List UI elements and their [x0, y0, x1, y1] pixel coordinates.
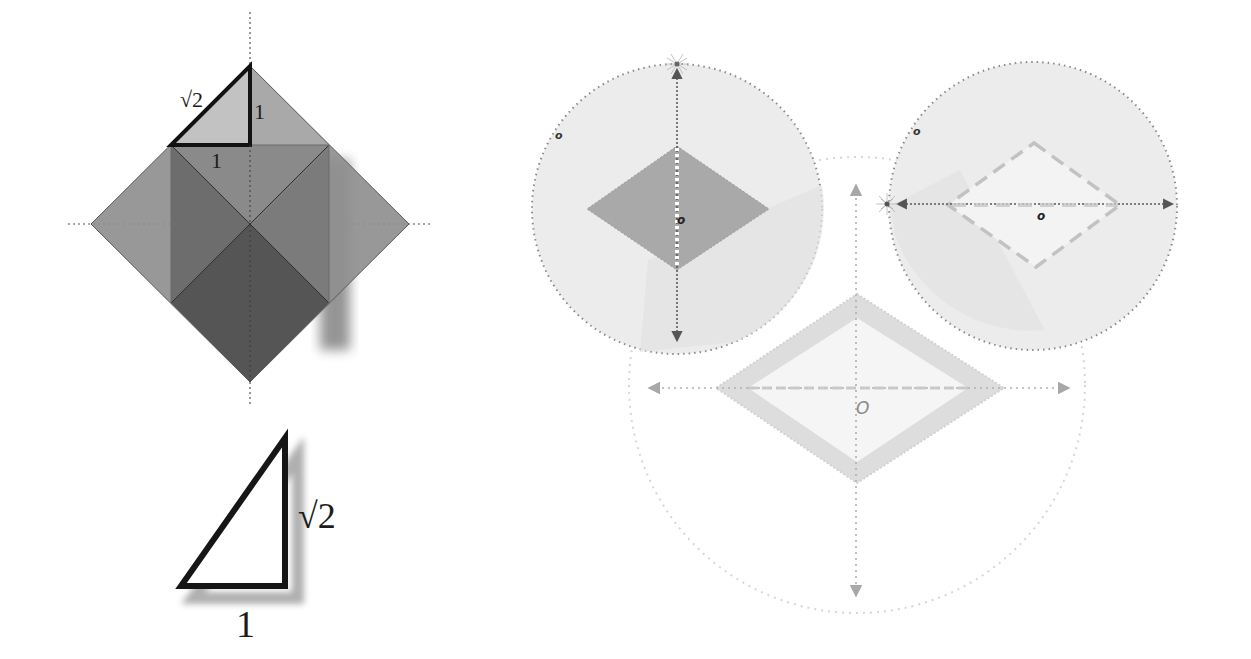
figure-canvas: √2 1 1 √2 1 o o [0, 0, 1251, 659]
triangle-side-label: √2 [298, 496, 336, 536]
top-right-center-label: o [1037, 209, 1045, 223]
horizontal-leg-label: 1 [211, 148, 222, 173]
square-diagram: √2 1 1 [68, 12, 432, 405]
top-right-corner-label: o [913, 125, 921, 138]
top-right-burst-icon [876, 193, 898, 215]
triangle-base-label: 1 [236, 603, 255, 645]
hypotenuse-label: √2 [180, 87, 203, 112]
right-triangle [181, 438, 285, 586]
standalone-triangle: √2 1 [181, 438, 336, 645]
top-left-circle-group: o o [532, 54, 824, 354]
top-left-corner-label: o [555, 129, 563, 142]
top-left-center-label: o [677, 213, 685, 227]
vertical-leg-label: 1 [254, 99, 265, 124]
bottom-center-label: O [856, 398, 869, 418]
